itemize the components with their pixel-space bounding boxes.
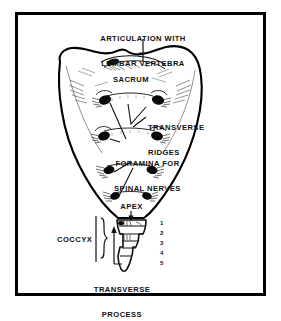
label-transverse-process-line1: TRANSVERSE [67, 286, 177, 294]
label-articulation-line2: LUMBAR VERTEBRA [63, 60, 223, 68]
coccyx-segment-number-4: 4 [160, 250, 163, 256]
coccyx-segment-number-5: 5 [160, 260, 163, 266]
coccyx-segment-number-2: 2 [160, 230, 163, 236]
coccyx-transverse-process-mark [118, 221, 124, 225]
label-articulation-line1: ARTICULATION WITH [63, 35, 223, 43]
coccyx-segment-number-3: 3 [160, 240, 163, 246]
label-apex: APEX [108, 203, 155, 211]
label-sacrum: SACRUM [101, 76, 161, 84]
label-foramina-spinal-nerves: FORAMINA FOR SPINAL NERVES [95, 144, 200, 210]
label-coccyx: COCCYX [57, 236, 103, 244]
label-foramina-line2: SPINAL NERVES [95, 185, 200, 193]
label-transverse-ridges-line1: TRANSVERSE [148, 124, 228, 132]
label-transverse-process-line2: PROCESS [67, 311, 177, 319]
label-transverse-process: TRANSVERSE PROCESS [67, 270, 177, 321]
coccyx-segment-number-1: 1 [160, 220, 163, 226]
label-foramina-line1: FORAMINA FOR [95, 160, 200, 168]
